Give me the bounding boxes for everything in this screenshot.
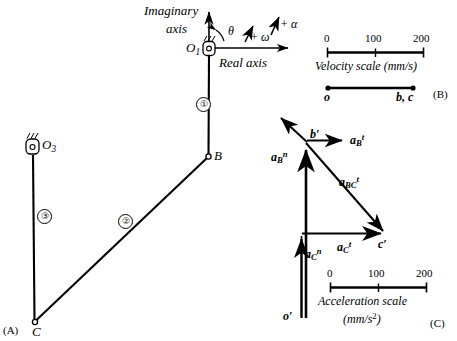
accel-point-o-prime: o′ bbox=[283, 310, 292, 322]
figure-vector-layer bbox=[0, 0, 457, 341]
o3-label: O3 bbox=[42, 138, 56, 154]
accel-units-open: (mm/s bbox=[343, 312, 372, 326]
accel-units-close: ) bbox=[377, 312, 381, 326]
panel-c-tag: (C) bbox=[430, 318, 445, 329]
ab-t-sup: t bbox=[362, 132, 364, 142]
joint-c-label: C bbox=[32, 325, 41, 338]
link-number-3: ③ bbox=[37, 209, 52, 224]
velocity-tick-0: 0 bbox=[324, 33, 330, 44]
vector-label-a-b-tangential: aBt bbox=[350, 133, 364, 148]
link-3-o3-c bbox=[33, 155, 35, 320]
velocity-scale-bar bbox=[327, 48, 424, 58]
accel-point-b-prime: b′ bbox=[310, 128, 319, 140]
acceleration-scale-bar bbox=[330, 283, 427, 293]
o1-subscript: 1 bbox=[195, 47, 200, 57]
o3-letter: O bbox=[42, 137, 51, 152]
joint-b-label: B bbox=[214, 149, 222, 162]
imaginary-axis-label-line2: axis bbox=[166, 22, 187, 35]
o1-ground-pivot bbox=[203, 36, 215, 56]
o3-ground-pivot bbox=[26, 133, 39, 154]
panel-a-tag: (A) bbox=[3, 325, 18, 336]
vector-label-a-c-tangential: aCt bbox=[337, 240, 351, 255]
theta-label: θ bbox=[228, 25, 234, 37]
vector-label-a-b-normal: aBn bbox=[271, 150, 288, 165]
acceleration-tick-0: 0 bbox=[327, 268, 333, 279]
acceleration-scale-caption-line1: Acceleration scale bbox=[318, 295, 407, 307]
acceleration-tick-200: 200 bbox=[416, 268, 433, 279]
abc-t-sup: t bbox=[357, 174, 359, 184]
acceleration-tick-100: 100 bbox=[368, 268, 385, 279]
link-2-b-c bbox=[37, 158, 208, 320]
velocity-point-o: o bbox=[324, 91, 330, 103]
velocity-scale-caption: Velocity scale (mm/s) bbox=[315, 60, 417, 72]
link-number-1: ① bbox=[196, 97, 211, 112]
figure-canvas: Imaginary axis Real axis O1 θ + ω + α O3… bbox=[0, 0, 457, 341]
imaginary-axis-label-line1: Imaginary bbox=[144, 4, 198, 17]
o1-letter: O bbox=[186, 40, 195, 55]
vector-label-a-c-normal: aCn bbox=[305, 247, 322, 262]
accel-o-prime-mark: ′ bbox=[289, 309, 292, 323]
o1-label: O1 bbox=[186, 41, 200, 57]
omega-label: + ω bbox=[250, 31, 270, 43]
velocity-tick-200: 200 bbox=[413, 33, 430, 44]
link-number-2: ② bbox=[118, 214, 133, 229]
vector-a-bc-tangential-reverse bbox=[281, 118, 307, 142]
ac-n-sup: n bbox=[317, 246, 322, 256]
abc-t-sub: BC bbox=[345, 180, 357, 190]
vector-label-a-bc-tangential: aBCt bbox=[339, 175, 359, 190]
ab-n-sup: n bbox=[283, 149, 288, 159]
alpha-arrow bbox=[271, 17, 279, 35]
theta-angle-arc bbox=[216, 30, 224, 41]
o3-subscript: 3 bbox=[51, 144, 56, 154]
ac-t-sup: t bbox=[349, 239, 351, 249]
alpha-label: + α bbox=[280, 18, 297, 30]
velocity-tick-100: 100 bbox=[365, 33, 382, 44]
accel-point-c-prime: c′ bbox=[378, 238, 387, 250]
panel-b-tag: (B) bbox=[433, 89, 448, 100]
acceleration-scale-caption-line2: (mm/s2) bbox=[343, 312, 381, 325]
velocity-point-bc: b, c bbox=[396, 91, 413, 103]
real-axis-label: Real axis bbox=[219, 56, 267, 69]
